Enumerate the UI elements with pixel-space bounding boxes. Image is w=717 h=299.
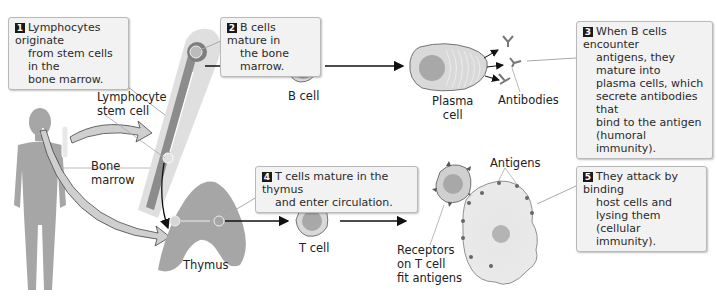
antigens-label: Antigens bbox=[490, 156, 541, 170]
step-5-badge: 5 bbox=[583, 172, 593, 182]
plasma-cell-icon bbox=[410, 44, 488, 91]
arm-bone-icon bbox=[62, 126, 68, 158]
antibody-icons bbox=[499, 36, 521, 84]
human-body-icon bbox=[14, 108, 66, 290]
t-cell-label: T cell bbox=[299, 241, 329, 255]
b-cell-label: B cell bbox=[288, 89, 319, 103]
step-4-callout: 4T cells mature in the thymus and enter … bbox=[255, 166, 418, 213]
thymus-label: Thymus bbox=[183, 258, 229, 272]
step-5-callout: 5They attack by binding host cells and l… bbox=[576, 166, 707, 252]
bone-marrow-label: Bone marrow bbox=[91, 159, 135, 187]
step-1-badge: 1 bbox=[15, 23, 25, 33]
step-1-callout: 1Lymphocytes originate from stem cells i… bbox=[8, 17, 129, 90]
step-3-callout: 3When B cells encounter antigens, they m… bbox=[576, 21, 713, 159]
host-cell-icon bbox=[461, 181, 537, 284]
step-3-badge: 3 bbox=[583, 27, 593, 37]
step-2-badge: 2 bbox=[227, 23, 237, 33]
antibodies-label: Antibodies bbox=[498, 93, 559, 107]
step-4-badge: 4 bbox=[262, 172, 272, 182]
receptors-label: Receptors on T cell fit antigens bbox=[397, 243, 462, 285]
stem-cell-label: Lymphocyte stem cell bbox=[97, 90, 167, 118]
step-2-callout: 2B cells mature in the bone marrow. bbox=[220, 17, 321, 77]
plasma-cell-label: Plasma cell bbox=[432, 94, 473, 122]
